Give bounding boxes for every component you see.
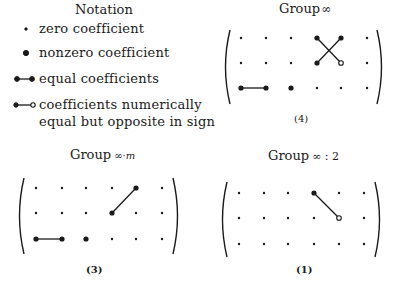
opposite-sign-circle [339,61,344,66]
nonzero-coefficient-dot [314,60,319,65]
zero-coefficient-dot [240,62,242,64]
right-paren [377,30,382,104]
equal-link [112,188,136,213]
zero-coefficient-dot [35,212,37,214]
nonzero-coefficient-dot [311,190,316,195]
nonzero-coefficient-dot [109,210,114,215]
zero-coefficient-dot [287,217,289,219]
zero-coefficient-dot [35,187,37,189]
left-paren [223,182,228,257]
zero-coefficient-dot [85,212,87,214]
legend-symbols [14,28,35,107]
zero-coefficient-dot [265,62,267,64]
zero-coefficient-dot [85,187,87,189]
opposite-link-icon [14,103,35,107]
nonzero-coefficient-dot [338,35,343,40]
zero-coefficient-dot [313,243,315,245]
left-paren [20,178,25,254]
nonzero-coefficient-dot [83,236,88,241]
zero-coefficient-dot [366,87,368,89]
nonzero-coefficient-dot [288,85,293,90]
zero-coefficient-dot [287,243,289,245]
zero-coefficient-dot [338,192,340,194]
opposite-sign-circle [337,216,342,221]
zero-coefficient-dot [265,37,267,39]
zero-coefficient-dot [263,217,265,219]
nonzero-coefficient-dot [59,236,64,241]
nonzero-coefficient-dot [33,236,38,241]
zero-coefficient-dot [287,192,289,194]
zero-coefficient-dot [240,37,242,39]
zero-coefficient-dot [340,87,342,89]
zero-coefficient-dot [61,187,63,189]
matrix-panels [20,30,382,257]
zero-coefficient-dot [363,243,365,245]
zero-coefficient-dot [366,37,368,39]
zero-coefficient-dot [161,212,163,214]
coefficient-matrix [223,182,380,257]
zero-coefficient-dot [238,217,240,219]
equal-link-icon [15,77,35,82]
zero-coefficient-dot [161,187,163,189]
nonzero-coefficient-dot [133,185,138,190]
nonzero-coefficient-dot [238,85,243,90]
zero-coefficient-dot [338,243,340,245]
zero-coefficient-dot [161,238,163,240]
zero-coefficient-dot [238,243,240,245]
zero-coefficient-dot [263,243,265,245]
diagram-canvas [0,0,408,303]
left-paren [226,30,231,104]
right-paren [173,178,178,254]
large-dot-icon [23,50,28,55]
coefficient-matrix [20,178,178,254]
zero-coefficient-dot [290,62,292,64]
zero-coefficient-dot [313,217,315,219]
zero-coefficient-dot [238,192,240,194]
small-dot-icon [25,28,27,30]
zero-coefficient-dot [363,192,365,194]
zero-coefficient-dot [135,238,137,240]
nonzero-coefficient-dot [263,85,268,90]
zero-coefficient-dot [290,37,292,39]
zero-coefficient-dot [111,238,113,240]
opposite-link [314,193,339,218]
zero-coefficient-dot [263,192,265,194]
zero-coefficient-dot [135,212,137,214]
zero-coefficient-dot [61,212,63,214]
coefficient-matrix [226,30,382,104]
zero-coefficient-dot [316,87,318,89]
right-paren [375,182,380,257]
zero-coefficient-dot [111,187,113,189]
zero-coefficient-dot [363,217,365,219]
nonzero-coefficient-dot [314,35,319,40]
zero-coefficient-dot [366,62,368,64]
